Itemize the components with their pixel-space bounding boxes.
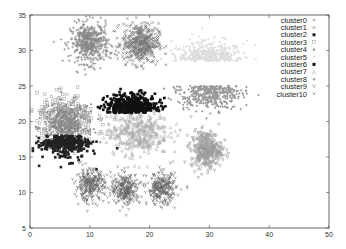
tick-label: 30 [18, 47, 26, 54]
tick-label: 0 [28, 231, 32, 238]
legend-marker-cluster4 [313, 48, 315, 50]
legend-marker-cluster9 [313, 85, 316, 88]
tick-label: 20 [18, 118, 26, 125]
tick-label: 30 [206, 231, 214, 238]
legend-marker-cluster1 [313, 26, 316, 29]
tick-label: 5 [22, 225, 26, 232]
legend-marker-cluster8 [313, 78, 316, 81]
legend-label-cluster10: cluster10 [277, 90, 307, 99]
tick-label: 35 [18, 12, 26, 19]
scatter-chart: 010203040505101520253035 cluster0cluster… [0, 0, 346, 249]
legend-marker-cluster3 [313, 41, 316, 44]
legend-marker-cluster6 [313, 63, 316, 66]
tick-label: 25 [18, 83, 26, 90]
data-points [30, 15, 260, 217]
legend: cluster0cluster1cluster2cluster3cluster4… [277, 16, 316, 99]
legend-marker-cluster10 [313, 93, 316, 96]
legend-marker-cluster5 [313, 56, 315, 58]
tick-label: 10 [18, 189, 26, 196]
tick-label: 20 [146, 231, 154, 238]
tick-label: 15 [18, 154, 26, 161]
legend-marker-cluster0 [313, 19, 316, 22]
tick-label: 50 [325, 231, 333, 238]
tick-label: 40 [265, 231, 273, 238]
tick-label: 10 [86, 231, 94, 238]
legend-marker-cluster7 [313, 70, 316, 73]
legend-marker-cluster2 [313, 33, 316, 36]
